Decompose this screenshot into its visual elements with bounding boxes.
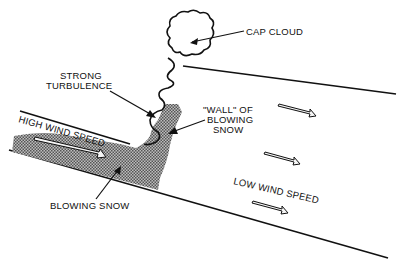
label-blowing-snow: BLOWING SNOW <box>50 200 129 211</box>
label-turbulence: TURBULENCE <box>46 80 112 91</box>
wind-arrow-lower <box>252 201 288 214</box>
wind-arrow-upper <box>278 104 316 117</box>
wind-arrow-middle <box>264 152 300 165</box>
turbulence-leader <box>110 91 152 115</box>
label-cap-cloud: CAP CLOUD <box>246 26 303 37</box>
diagram-canvas: CAP CLOUD STRONG TURBULENCE "WALL" OF BL… <box>0 0 403 265</box>
cap-cloud <box>167 10 214 55</box>
blowing-snow-diagram: CAP CLOUD STRONG TURBULENCE "WALL" OF BL… <box>0 0 403 265</box>
label-low-wind: LOW WIND SPEED <box>233 175 321 205</box>
label-wall-3: SNOW <box>213 124 243 135</box>
upper-flow-boundary <box>183 66 396 94</box>
